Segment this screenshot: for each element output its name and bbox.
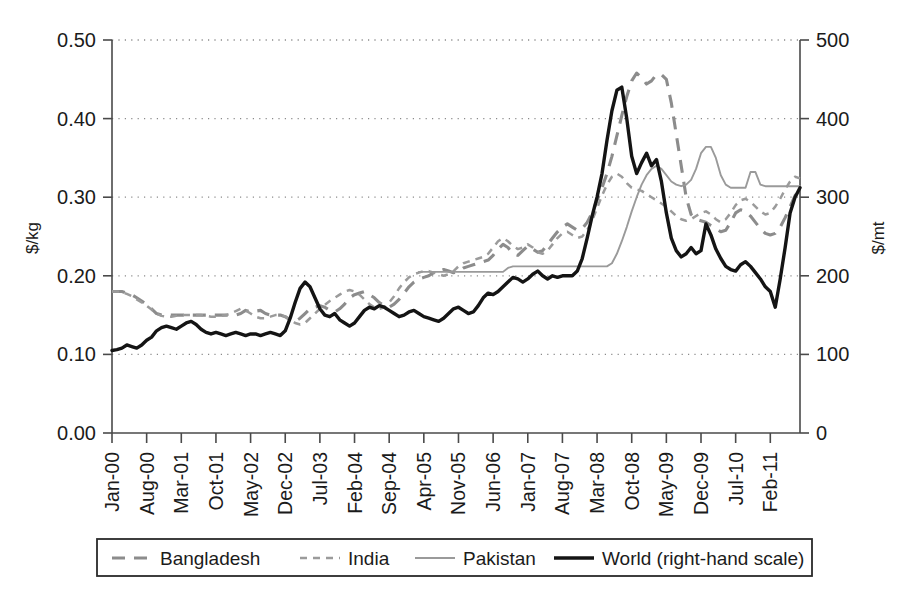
ytick-label-right: 0	[816, 422, 827, 444]
xtick-label: Jan-07	[517, 452, 539, 512]
legend-label-india: India	[348, 548, 390, 569]
right-axis-title: $/mt	[869, 221, 888, 254]
legend-label-pakistan: Pakistan	[463, 548, 536, 569]
xtick-label: Oct-01	[205, 452, 227, 511]
ytick-label-right: 200	[816, 265, 849, 287]
ytick-label-right: 300	[816, 186, 849, 208]
chart-container: 0.500.400.300.200.100.00 500400300200100…	[0, 0, 909, 605]
left-ytick-marks	[103, 40, 112, 433]
xtick-label: Mar-01	[170, 452, 192, 514]
ytick-label-left: 0.50	[57, 29, 96, 51]
xtick-marks	[112, 433, 770, 443]
legend-label-world: World (right-hand scale)	[602, 548, 804, 569]
ytick-label-left: 0.30	[57, 186, 96, 208]
xtick-label: Aug-07	[551, 452, 573, 515]
xtick-label: Apr-05	[413, 452, 435, 511]
xtick-label: Dec-02	[274, 452, 296, 515]
data-series-group	[112, 73, 800, 350]
xtick-label: May-09	[655, 452, 677, 517]
xtick-label: Jun-06	[482, 452, 504, 512]
ytick-label-right: 500	[816, 29, 849, 51]
xtick-label: Oct-08	[621, 452, 643, 511]
xtick-label: Dec-09	[690, 452, 712, 515]
ytick-label-left: 0.00	[57, 422, 96, 444]
xtick-label: May-02	[240, 452, 262, 517]
axes-group	[112, 40, 800, 433]
xtick-label: Feb-11	[759, 452, 781, 512]
ytick-label-right: 400	[816, 108, 849, 130]
left-ytick-labels: 0.500.400.300.200.100.00	[57, 29, 96, 444]
ytick-label-left: 0.20	[57, 265, 96, 287]
xtick-label: Jan-00	[101, 452, 123, 512]
xtick-label: Jul-10	[725, 452, 747, 505]
xtick-label: Mar-08	[586, 452, 608, 514]
xtick-label: Feb-04	[344, 452, 366, 514]
xtick-label: Sep-04	[378, 452, 400, 515]
xtick-label: Nov-05	[447, 452, 469, 515]
series-line-world	[112, 87, 800, 350]
legend-label-bangladesh: Bangladesh	[160, 548, 260, 569]
xtick-label: Aug-00	[136, 452, 158, 515]
xtick-labels: Jan-00Aug-00Mar-01Oct-01May-02Dec-02Jul-…	[101, 452, 781, 517]
legend-entries: BangladeshIndiaPakistanWorld (right-hand…	[112, 548, 804, 569]
ytick-label-right: 100	[816, 343, 849, 365]
ytick-label-left: 0.10	[57, 343, 96, 365]
xtick-label: Jul-03	[309, 452, 331, 505]
right-ytick-marks	[800, 40, 809, 433]
ytick-label-left: 0.40	[57, 108, 96, 130]
price-trend-line-chart: 0.500.400.300.200.100.00 500400300200100…	[0, 0, 909, 605]
right-ytick-labels: 5004003002001000	[816, 29, 849, 444]
left-axis-title: $/kg	[23, 222, 42, 254]
series-line-india	[112, 174, 800, 325]
chart-legend: BangladeshIndiaPakistanWorld (right-hand…	[97, 539, 812, 576]
